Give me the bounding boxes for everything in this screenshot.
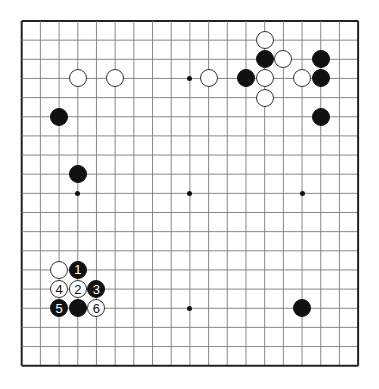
go-board[interactable]: 123456 <box>0 0 379 389</box>
white-stone <box>256 89 274 107</box>
black-stone <box>256 50 274 68</box>
black-stone <box>312 108 330 126</box>
black-stone <box>312 50 330 68</box>
white-stone <box>50 261 68 279</box>
white-stone <box>256 69 274 87</box>
black-stone-move-1: 1 <box>69 261 87 279</box>
white-stone <box>256 31 274 49</box>
star-point <box>300 191 305 196</box>
white-stone-move-2: 2 <box>69 280 87 298</box>
black-stone <box>69 165 87 183</box>
black-stone <box>50 108 68 126</box>
black-stone <box>69 299 87 317</box>
white-stone <box>200 69 218 87</box>
